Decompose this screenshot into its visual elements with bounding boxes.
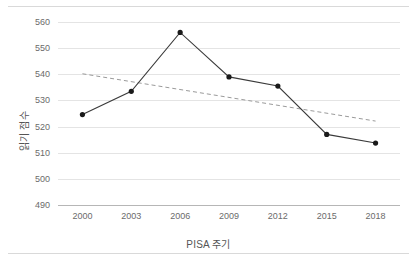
y-tick-label-520: 520 [6, 122, 50, 131]
x-tick-label-2006: 2006 [170, 212, 190, 221]
x-tick-label-2018: 2018 [366, 212, 386, 221]
trendline-path [82, 74, 375, 121]
x-tick-label-2012: 2012 [268, 212, 288, 221]
x-tick-label-2015: 2015 [317, 212, 337, 221]
x-tick-label-2009: 2009 [219, 212, 239, 221]
data-point-2006 [178, 30, 183, 35]
y-tick-label-500: 500 [6, 174, 50, 183]
data-point-markers [80, 30, 378, 146]
data-point-2009 [226, 74, 231, 79]
data-point-2000 [80, 112, 85, 117]
y-tick-label-550: 550 [6, 44, 50, 53]
data-point-2015 [324, 132, 329, 137]
reading-score-line-path [82, 32, 375, 143]
x-axis-title: PISA 주기 [0, 236, 417, 251]
pisa-reading-score-chart: 읽기 점수 490500510520530540550560 200020032… [0, 0, 417, 261]
data-point-2003 [129, 89, 134, 94]
y-tick-label-530: 530 [6, 96, 50, 105]
y-tick-label-510: 510 [6, 148, 50, 157]
data-series-layer [58, 22, 400, 205]
y-tick-label-560: 560 [6, 18, 50, 27]
data-point-2018 [373, 140, 378, 145]
chart-bottom-border [8, 253, 409, 254]
plot-area: 490500510520530540550560 200020032006200… [58, 22, 400, 205]
y-tick-label-540: 540 [6, 70, 50, 79]
data-point-2012 [275, 83, 280, 88]
chart-top-border [8, 6, 409, 7]
x-tick-label-2003: 2003 [121, 212, 141, 221]
y-tick-label-490: 490 [6, 201, 50, 210]
gridline-490 [58, 205, 400, 206]
x-tick-label-2000: 2000 [72, 212, 92, 221]
